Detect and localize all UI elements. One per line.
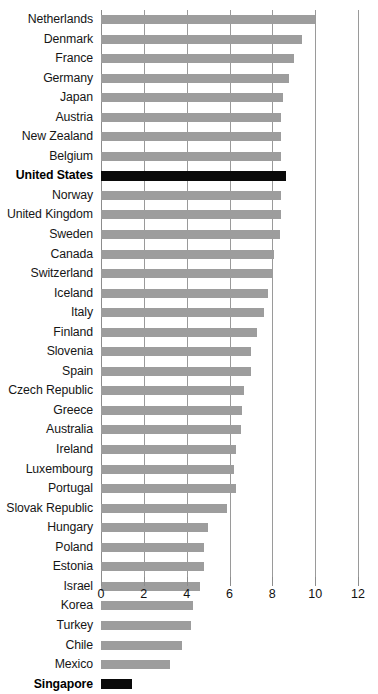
category-label: Singapore xyxy=(0,675,97,694)
category-label: Finland xyxy=(0,323,97,343)
category-label: Turkey xyxy=(0,616,97,636)
x-tick-8 xyxy=(272,577,273,586)
bar xyxy=(101,504,227,513)
bar-row xyxy=(101,186,358,206)
x-tick-label-12: 12 xyxy=(351,587,365,601)
bar-series xyxy=(101,10,358,577)
category-label: Portugal xyxy=(0,479,97,499)
chart-title-clipped xyxy=(0,0,378,8)
bar-row xyxy=(101,675,358,694)
bar-row xyxy=(101,342,358,362)
bar xyxy=(101,230,280,239)
bar xyxy=(101,445,236,454)
x-tick-2 xyxy=(144,577,145,586)
category-axis-labels: NetherlandsDenmarkFranceGermanyJapanAust… xyxy=(0,10,97,694)
category-label: Sweden xyxy=(0,225,97,245)
category-label: Japan xyxy=(0,88,97,108)
bar xyxy=(101,406,242,415)
bar xyxy=(101,347,251,356)
x-tick-label-8: 8 xyxy=(269,587,276,601)
category-label: Korea xyxy=(0,596,97,616)
bar xyxy=(101,660,170,669)
category-label: Hungary xyxy=(0,518,97,538)
bar xyxy=(101,562,204,571)
bar xyxy=(101,386,244,395)
category-label: Netherlands xyxy=(0,10,97,30)
bar xyxy=(101,465,234,474)
category-label: Chile xyxy=(0,636,97,656)
category-label: Germany xyxy=(0,69,97,89)
bar-row xyxy=(101,401,358,421)
bar-row xyxy=(101,30,358,50)
category-label: Australia xyxy=(0,420,97,440)
bar xyxy=(101,35,302,44)
bar xyxy=(101,250,274,259)
bar xyxy=(101,543,204,552)
bar xyxy=(101,132,281,141)
category-label: Switzerland xyxy=(0,264,97,284)
bar-row xyxy=(101,362,358,382)
bar-row xyxy=(101,440,358,460)
bar xyxy=(101,54,294,63)
x-tick-0 xyxy=(101,577,102,586)
bar-row xyxy=(101,499,358,519)
category-label: Czech Republic xyxy=(0,381,97,401)
category-label: Estonia xyxy=(0,557,97,577)
category-label: United Kingdom xyxy=(0,205,97,225)
category-label: Greece xyxy=(0,401,97,421)
bar xyxy=(101,269,272,278)
bar-row xyxy=(101,557,358,577)
category-label: Austria xyxy=(0,108,97,128)
bar xyxy=(101,621,191,630)
x-tick-label-0: 0 xyxy=(98,587,105,601)
category-label: Italy xyxy=(0,303,97,323)
category-label: Iceland xyxy=(0,284,97,304)
category-label: Israel xyxy=(0,577,97,597)
bar-row xyxy=(101,69,358,89)
category-label: Mexico xyxy=(0,655,97,675)
bar-row xyxy=(101,264,358,284)
bar xyxy=(101,641,182,650)
bar-row xyxy=(101,147,358,167)
bar-row xyxy=(101,381,358,401)
x-tick-label-4: 4 xyxy=(183,587,190,601)
bar xyxy=(101,523,208,532)
bar xyxy=(101,328,257,337)
x-tick-4 xyxy=(187,577,188,586)
category-label: Poland xyxy=(0,538,97,558)
bar xyxy=(101,74,289,83)
bar-row xyxy=(101,420,358,440)
bar-row xyxy=(101,127,358,147)
category-label: Norway xyxy=(0,186,97,206)
bar-row xyxy=(101,538,358,558)
category-label: Spain xyxy=(0,362,97,382)
x-tick-6 xyxy=(230,577,231,586)
category-label: Canada xyxy=(0,245,97,265)
x-tick-label-10: 10 xyxy=(308,587,322,601)
bar-row xyxy=(101,655,358,675)
bar xyxy=(101,152,281,161)
bar-row xyxy=(101,245,358,265)
bar-row xyxy=(101,479,358,499)
category-label: United States xyxy=(0,166,97,186)
bar xyxy=(101,113,281,122)
x-tick-10 xyxy=(315,577,316,586)
bar xyxy=(101,367,251,376)
bar-row xyxy=(101,205,358,225)
plot-area xyxy=(101,10,358,577)
bar xyxy=(101,425,241,434)
category-label: Ireland xyxy=(0,440,97,460)
bar-row xyxy=(101,284,358,304)
bar-row xyxy=(101,49,358,69)
category-label: Slovenia xyxy=(0,342,97,362)
bar-row xyxy=(101,88,358,108)
bar xyxy=(101,679,132,689)
bar-row xyxy=(101,303,358,323)
bar-row xyxy=(101,323,358,343)
bar xyxy=(101,484,236,493)
bar-row xyxy=(101,225,358,245)
bar-row xyxy=(101,460,358,480)
category-label: Belgium xyxy=(0,147,97,167)
x-axis: 024681012 xyxy=(101,577,358,610)
